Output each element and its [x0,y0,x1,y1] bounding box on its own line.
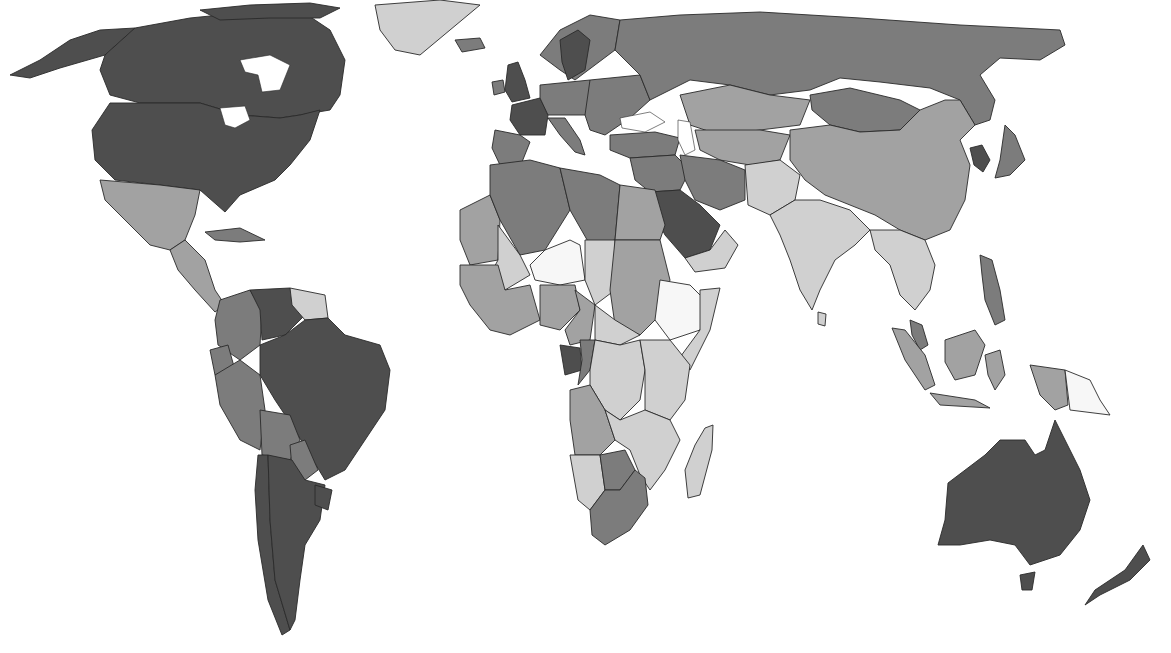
region-southeast-asia[interactable] [870,230,935,310]
region-indonesia-papua[interactable] [1030,365,1068,410]
region-turkey[interactable] [610,132,680,158]
region-india[interactable] [770,200,870,310]
region-united-kingdom[interactable] [505,62,530,102]
north-america [10,0,480,312]
region-mexico[interactable] [100,180,200,250]
region-central-america[interactable] [170,240,225,312]
region-new-zealand[interactable] [1085,545,1150,605]
region-east-africa[interactable] [640,340,690,420]
region-iceland[interactable] [455,38,485,52]
south-america [210,288,390,635]
region-australia[interactable] [938,420,1090,565]
region-indonesia-java[interactable] [930,393,990,408]
region-tasmania[interactable] [1020,572,1035,590]
region-canada[interactable] [100,10,345,118]
region-indonesia-borneo[interactable] [945,330,985,380]
region-japan[interactable] [995,125,1025,178]
region-sri-lanka[interactable] [818,312,826,326]
region-papua-new-guinea[interactable] [1065,370,1110,415]
region-italy[interactable] [548,118,585,155]
region-indonesia-sulawesi[interactable] [985,350,1005,390]
region-libya[interactable] [560,168,620,245]
oceania [938,420,1150,605]
region-uruguay[interactable] [315,485,332,510]
region-canada-arctic[interactable] [200,3,340,20]
region-peru[interactable] [215,360,265,450]
region-korea[interactable] [970,145,990,172]
region-philippines[interactable] [980,255,1005,325]
region-ireland[interactable] [492,80,505,95]
region-madagascar[interactable] [685,425,713,498]
region-cuba[interactable] [205,228,265,242]
world-choropleth-map [0,0,1171,653]
region-gabon[interactable] [560,345,582,375]
